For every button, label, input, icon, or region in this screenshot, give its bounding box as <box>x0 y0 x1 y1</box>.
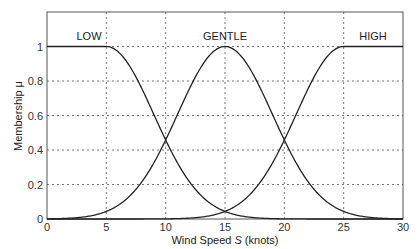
x-axis-label: Wind Speed S (knots) <box>171 234 278 246</box>
x-tick-label: 25 <box>338 221 350 233</box>
y-tick-label: 0.6 <box>28 110 43 122</box>
grid-lines <box>47 12 403 219</box>
y-tick-label: 0.8 <box>28 75 43 87</box>
x-tick-label: 5 <box>103 221 109 233</box>
x-tick-label: 10 <box>160 221 172 233</box>
y-tick-label: 1 <box>37 41 43 53</box>
x-tick-label: 15 <box>219 221 231 233</box>
y-axis-label: Membership μ <box>12 81 24 151</box>
y-tick-label: 0.2 <box>28 179 43 191</box>
label-high: HIGH <box>359 30 387 42</box>
y-tick-label: 0.4 <box>28 144 43 156</box>
membership-chart: 05101520253000.20.40.60.81 LOW GENTLE HI… <box>0 0 419 249</box>
x-tick-label: 0 <box>44 221 50 233</box>
label-low: LOW <box>76 30 102 42</box>
y-tick-label: 0 <box>37 213 43 225</box>
x-tick-label: 30 <box>397 221 409 233</box>
x-tick-label: 20 <box>278 221 290 233</box>
label-gentle: GENTLE <box>203 30 247 42</box>
axis-ticks: 05101520253000.20.40.60.81 <box>28 41 409 234</box>
